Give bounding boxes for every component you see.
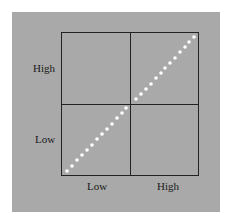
diagonal-dotted-line xyxy=(0,0,231,223)
x-label-low: Low xyxy=(87,180,107,192)
y-label-high: High xyxy=(33,62,55,74)
x-label-high: High xyxy=(157,180,179,192)
y-label-low: Low xyxy=(35,133,55,145)
